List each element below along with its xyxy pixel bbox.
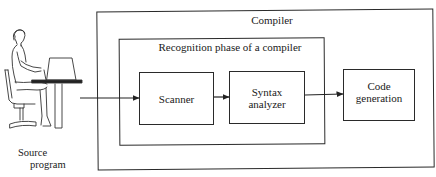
scanner-label: Scanner (140, 93, 213, 105)
syntax-analyzer-box: Syntax analyzer (229, 71, 305, 124)
scanner-box: Scanner (139, 72, 214, 125)
source-program-label: Source program (18, 147, 66, 171)
code-generation-label: Code generation (344, 80, 414, 104)
person-at-terminal-icon (0, 0, 85, 132)
syntax-analyzer-label: Syntax analyzer (230, 86, 304, 110)
code-generation-box: Code generation (343, 69, 415, 121)
recognition-phase-title: Recognition phase of a compiler (150, 41, 310, 53)
compiler-title: Compiler (242, 14, 302, 26)
